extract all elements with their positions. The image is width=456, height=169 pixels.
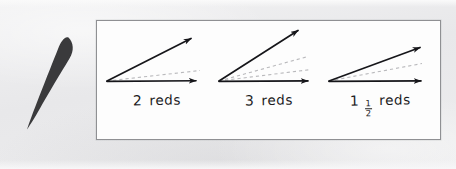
figure-inner: 2 reds xyxy=(97,21,440,139)
angle-label-whole: 2 xyxy=(132,92,142,108)
angle-drawing-3-reds xyxy=(211,25,326,97)
fraction-numerator: 1 xyxy=(364,99,372,108)
angle-label-3-reds: 3 reds xyxy=(211,93,326,108)
paper-edge-bottom xyxy=(0,160,456,169)
figure-frame: 2 reds xyxy=(96,20,441,140)
angle-label-whole: 1 xyxy=(350,92,360,108)
angle-panel-3-reds: 3 reds xyxy=(211,21,326,139)
angle-label-2-reds: 2 reds xyxy=(99,93,214,108)
angle-drawing-2-reds xyxy=(99,25,214,97)
angle-label-1-and-a-half-reds: 1 1 2 reds xyxy=(323,93,438,117)
teardrop-mark xyxy=(24,33,76,133)
angle-label-word: reds xyxy=(149,91,181,108)
scanned-page: 2 reds xyxy=(0,0,456,169)
paper-edge-top xyxy=(0,0,456,7)
angle-label-word: reds xyxy=(261,91,293,108)
fraction-denominator: 2 xyxy=(365,109,373,118)
angle-panel-2-reds: 2 reds xyxy=(99,21,214,139)
angle-label-word: reds xyxy=(379,91,411,108)
angle-label-fraction: 1 2 xyxy=(364,99,372,118)
angle-panel-1-and-a-half-reds: 1 1 2 reds xyxy=(323,21,438,139)
angle-drawing-1-and-a-half-reds xyxy=(323,25,438,97)
angle-label-whole: 3 xyxy=(244,92,254,108)
